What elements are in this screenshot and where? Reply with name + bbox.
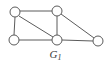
bottom-left-vertex [9, 35, 19, 45]
edge-bottom-middle-to-right [62, 40, 93, 41]
bottom-middle-vertex [52, 35, 62, 45]
figure-caption-subscript: 1 [57, 53, 61, 62]
top-middle-vertex [52, 6, 62, 16]
graph-figure: G1 [0, 0, 111, 65]
right-vertex [93, 36, 103, 46]
figure-caption: G1 [0, 47, 111, 63]
edge-top-left-to-bottom-left [14, 17, 15, 35]
edge-top-left-to-bottom-middle [19, 16, 53, 37]
edge-top-middle-to-right [61, 14, 94, 38]
top-left-vertex [10, 7, 20, 17]
